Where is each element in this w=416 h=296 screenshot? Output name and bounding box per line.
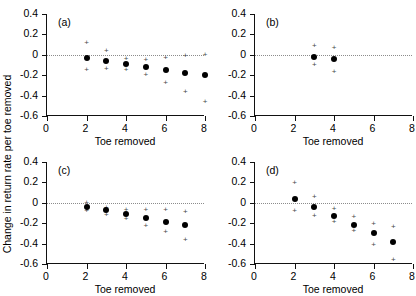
ci-upper-marker: [332, 206, 337, 211]
x-axis-tick-label: 8: [402, 270, 416, 282]
y-axis-tick: [250, 162, 255, 163]
y-axis-tick: [250, 223, 255, 224]
data-point: [390, 239, 396, 245]
ci-upper-marker: [351, 214, 356, 219]
plot-area: [255, 162, 412, 263]
x-axis-tick-label: 0: [244, 270, 264, 282]
x-axis-tick: [295, 264, 296, 269]
x-axis-tick-label: 4: [323, 270, 343, 282]
ci-lower-marker: [312, 212, 317, 217]
x-axis-tick-label: 2: [284, 270, 304, 282]
data-point: [371, 230, 377, 236]
x-axis-tick: [374, 264, 375, 269]
data-point: [311, 204, 317, 210]
ci-lower-marker: [391, 256, 396, 261]
y-axis-tick-label: 0.2: [210, 175, 246, 187]
plot-box: [254, 162, 412, 264]
data-point: [292, 196, 298, 202]
y-axis-tick-label: -0.6: [210, 257, 246, 269]
ci-upper-marker: [371, 220, 376, 225]
ci-upper-marker: [391, 224, 396, 229]
ci-lower-marker: [371, 242, 376, 247]
y-axis-tick-label: -0.2: [210, 216, 246, 228]
x-axis-tick-label: 6: [363, 270, 383, 282]
data-point: [351, 222, 357, 228]
y-axis-tick: [250, 203, 255, 204]
panel-label: (d): [266, 164, 279, 176]
y-axis-tick-label: -0.4: [210, 237, 246, 249]
y-axis-tick-label: 0.4: [210, 155, 246, 167]
ci-lower-marker: [292, 207, 297, 212]
ci-upper-marker: [292, 180, 297, 185]
ci-upper-marker: [312, 194, 317, 199]
x-axis-tick: [255, 264, 256, 269]
y-axis-tick: [250, 244, 255, 245]
x-axis-label: Toe removed: [254, 283, 412, 295]
x-axis-tick: [334, 264, 335, 269]
y-axis-tick: [250, 182, 255, 183]
x-axis-tick: [413, 264, 414, 269]
y-axis-tick-label: 0: [210, 196, 246, 208]
panel-d: 0.40.20-0.2-0.4-0.602468Toe removed(d): [0, 0, 416, 296]
ci-lower-marker: [351, 228, 356, 233]
figure-root: Change in return rate per toe removed 0.…: [0, 0, 416, 296]
data-point: [331, 213, 337, 219]
